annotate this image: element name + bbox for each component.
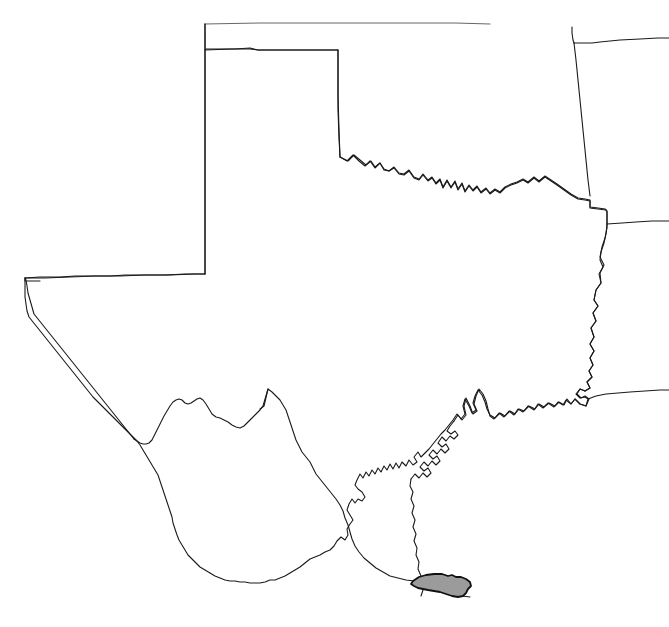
map-canvas [0,0,669,627]
map-figure [0,0,669,627]
